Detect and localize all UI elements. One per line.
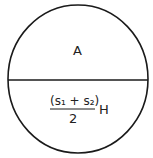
top-label: A <box>73 44 82 57</box>
fraction-denominator: 2 <box>69 112 77 125</box>
circle-outline <box>8 5 148 153</box>
fraction-numerator: (s₁ + s₂) <box>50 95 99 107</box>
circle-diagram <box>0 0 153 158</box>
formula-suffix: H <box>99 103 109 116</box>
